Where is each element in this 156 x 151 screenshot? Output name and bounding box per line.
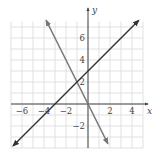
x-tick-label: −6 (16, 106, 29, 116)
x-tick-label: 4 (129, 106, 134, 116)
x-tick-label: 2 (107, 106, 112, 116)
x-tick-label: −2 (60, 106, 73, 116)
x-tick-labels: −6−4−224 (16, 106, 135, 116)
y-axis-label: y (91, 5, 98, 15)
coordinate-graph: x y −6−4−224 642−2 (0, 0, 156, 151)
x-axis-label: x (147, 106, 152, 116)
y-tick-label: −2 (72, 121, 85, 131)
y-tick-label: 4 (80, 55, 85, 65)
y-tick-label: 6 (80, 33, 85, 43)
